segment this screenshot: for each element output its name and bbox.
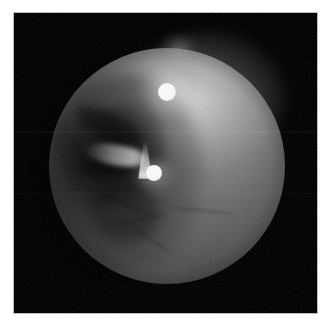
figure-root: Endoscopic view of a pale rounded tissue… [0,0,332,328]
specular-core [158,83,176,101]
specular-highlight-lower [146,165,162,181]
image-frame [14,13,317,313]
specular-highlight-upper [158,83,176,101]
specular-core [146,165,162,181]
dome-peak-glare [162,35,196,57]
endoscope-field-of-view [14,13,317,313]
